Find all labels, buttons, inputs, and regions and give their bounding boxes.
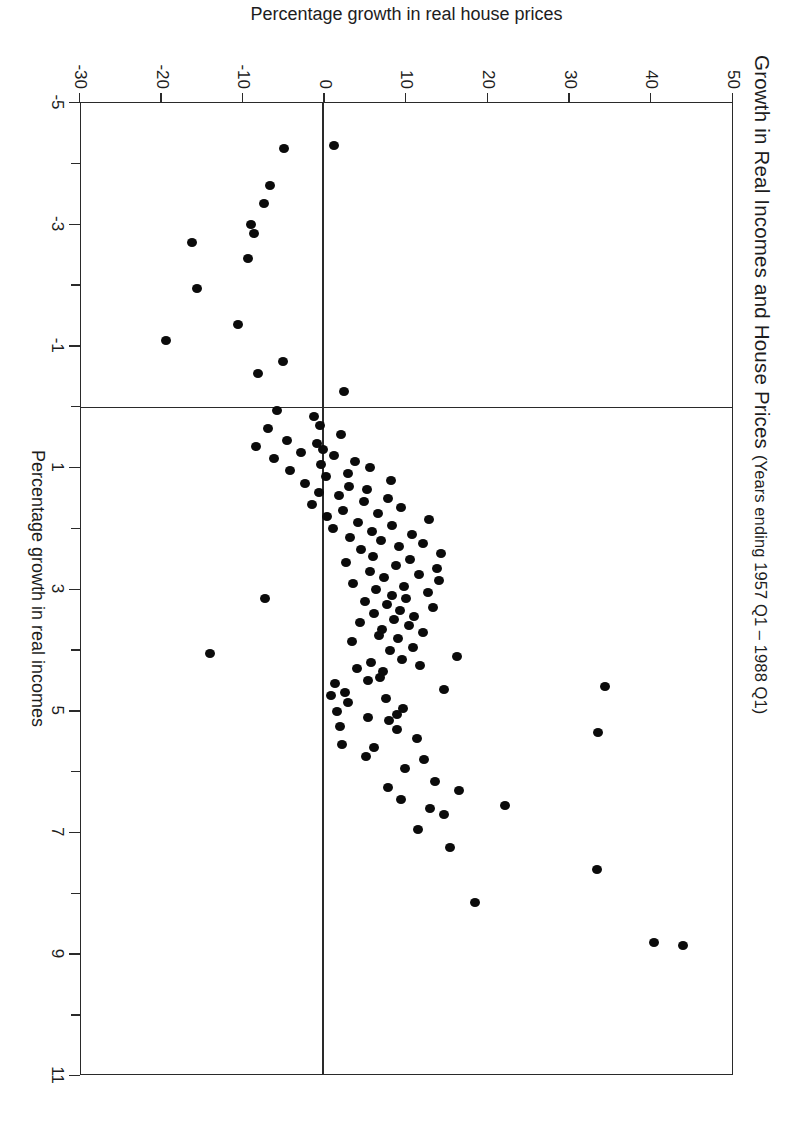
y-axis: 50403020100-10-20-30	[80, 102, 733, 162]
y-axis-tick	[160, 93, 161, 102]
x-axis-tick	[69, 710, 80, 711]
plot-area	[80, 102, 733, 1075]
scatter-point	[391, 561, 401, 570]
scatter-point	[233, 320, 243, 329]
scatter-point	[341, 558, 351, 567]
x-axis-tick-label: -3	[47, 216, 67, 231]
scatter-point	[381, 694, 391, 703]
x-axis-tick	[71, 406, 80, 407]
scatter-point	[368, 552, 378, 561]
y-axis-tick-label: 40	[641, 70, 661, 89]
x-axis-tick	[69, 345, 80, 346]
scatter-point	[192, 284, 202, 293]
scatter-point	[436, 549, 446, 558]
scatter-point	[396, 503, 406, 512]
y-axis-tick	[487, 93, 488, 102]
scatter-point	[345, 533, 355, 542]
scatter-point	[593, 728, 603, 737]
x-axis-tick-label: 7	[47, 827, 67, 836]
x-axis-tick	[69, 102, 80, 103]
scatter-point	[328, 524, 338, 533]
y-axis-tick-label: 10	[397, 70, 417, 89]
scatter-point	[300, 479, 310, 488]
scatter-point	[414, 570, 424, 579]
x-axis-tick-label: 5	[47, 705, 67, 714]
y-axis-tick	[323, 93, 324, 102]
scatter-point	[678, 941, 688, 950]
y-axis-tick-label: -20	[152, 64, 172, 89]
scatter-point	[397, 655, 407, 664]
scatter-point	[359, 497, 369, 506]
zero-line-horizontal	[322, 103, 323, 1074]
x-axis-tick-label: 3	[47, 584, 67, 593]
scatter-point	[278, 357, 288, 366]
scatter-point	[418, 628, 428, 637]
y-axis-tick-label: 0	[315, 80, 335, 89]
x-axis-tick	[69, 589, 80, 590]
scatter-point	[243, 254, 253, 263]
scatter-point	[260, 594, 270, 603]
scatter-point	[418, 539, 428, 548]
scatter-point	[389, 615, 399, 624]
scatter-point	[343, 698, 353, 707]
scatter-point	[379, 573, 389, 582]
scatter-point	[251, 442, 261, 451]
scatter-point	[425, 804, 435, 813]
scatter-point	[399, 582, 409, 591]
y-axis-tick-label: -30	[70, 64, 90, 89]
scatter-point	[363, 713, 373, 722]
scatter-point	[500, 801, 510, 810]
scatter-point	[395, 606, 405, 615]
scatter-point	[400, 764, 410, 773]
scatter-point	[373, 509, 383, 518]
scatter-point	[269, 454, 279, 463]
chart-title-main: Growth in Real Incomes and House Prices	[751, 55, 774, 449]
scatter-point	[387, 591, 397, 600]
scatter-point	[360, 597, 370, 606]
scatter-point	[367, 527, 377, 536]
x-axis-tick-label: 11	[47, 1066, 67, 1084]
zero-line-vertical	[81, 407, 732, 408]
scatter-point	[263, 424, 273, 433]
x-axis-tick	[69, 467, 80, 468]
y-axis-tick	[732, 93, 733, 102]
scatter-point	[348, 579, 358, 588]
scatter-point	[296, 448, 306, 457]
scatter-point	[383, 494, 393, 503]
scatter-point	[361, 752, 371, 761]
scatter-point	[315, 421, 325, 430]
scatter-point	[383, 783, 393, 792]
scatter-point	[413, 825, 423, 834]
scatter-point	[398, 704, 408, 713]
x-axis-tick	[71, 649, 80, 650]
scatter-point	[434, 576, 444, 585]
scatter-point	[376, 536, 386, 545]
scatter-point	[347, 637, 357, 646]
scatter-point	[353, 518, 363, 527]
scatter-point	[392, 725, 402, 734]
scatter-point	[344, 482, 354, 491]
scatter-point	[337, 740, 347, 749]
x-axis-tick	[71, 893, 80, 894]
scatter-point	[350, 457, 360, 466]
scatter-point	[470, 898, 480, 907]
scatter-point	[649, 938, 659, 947]
scatter-point	[314, 488, 324, 497]
chart-subtitle: (Years ending 1957 Q1 – 1988 Q1)	[752, 455, 770, 714]
scatter-point	[415, 661, 425, 670]
scatter-point	[385, 646, 395, 655]
scatter-point	[405, 555, 415, 564]
scatter-point	[424, 515, 434, 524]
scatter-point	[409, 612, 419, 621]
scatter-point	[343, 469, 353, 478]
scatter-point	[187, 238, 197, 247]
x-axis-tick-label: 9	[47, 949, 67, 958]
scatter-point	[312, 439, 322, 448]
scatter-point	[393, 634, 403, 643]
scatter-point	[408, 643, 418, 652]
x-axis-tick	[69, 832, 80, 833]
scatter-point	[600, 682, 610, 691]
scatter-point	[432, 564, 442, 573]
y-axis-tick-label: -10	[233, 64, 253, 89]
scatter-point	[407, 530, 417, 539]
